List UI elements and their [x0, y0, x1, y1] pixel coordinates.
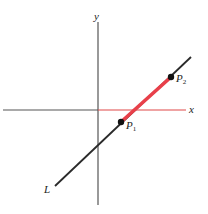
point-p2-label: P2 — [175, 72, 187, 86]
x-axis-label: x — [188, 103, 194, 115]
point-p1-label: P1 — [125, 119, 137, 133]
point-p1 — [118, 119, 124, 125]
coordinate-diagram: y x L P1 P2 — [0, 0, 208, 214]
point-p2-subscript: 2 — [183, 78, 187, 86]
point-p2 — [168, 74, 174, 80]
segment-p1-p2 — [121, 77, 171, 122]
y-axis-label: y — [93, 10, 99, 22]
line-l-label: L — [43, 183, 50, 195]
point-p1-subscript: 1 — [133, 125, 137, 133]
